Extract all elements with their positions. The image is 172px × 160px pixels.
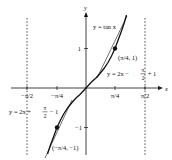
y-tick-label: −1 — [75, 124, 82, 131]
svg-text:− 1: − 1 — [48, 108, 58, 115]
y-axis-arrow-icon — [84, 12, 88, 17]
x-tick-label: −π/4 — [51, 92, 64, 99]
svg-text:2: 2 — [44, 113, 47, 119]
svg-text:y = 2x +: y = 2x + — [9, 108, 31, 115]
y-tick-label: 1 — [78, 45, 81, 52]
svg-text:π: π — [44, 105, 47, 111]
tan-graph: y x −π/2 −π/4 π/4 π/2 1 −1 y = tan x (π/… — [0, 0, 172, 160]
point-label-lower: (−π/4, −1) — [52, 144, 79, 152]
x-tick-label: −π/2 — [21, 92, 33, 99]
svg-text:π: π — [142, 67, 145, 73]
x-tick-label: π/2 — [141, 92, 149, 99]
function-label: y = tan x — [93, 23, 117, 30]
y-axis-label: y — [83, 4, 87, 11]
x-axis-arrow-icon — [158, 86, 163, 90]
svg-text:2: 2 — [142, 75, 145, 81]
x-axis-label: x — [164, 85, 168, 92]
x-tick-label: π/4 — [111, 92, 120, 99]
point-label-upper: (π/4, 1) — [118, 54, 137, 62]
tangent-label-upper: y = 2x − π 2 + 1 — [107, 67, 156, 81]
point-neg-pi4 — [55, 125, 59, 129]
tan-curve — [48, 15, 127, 154]
tangent-label-lower: y = 2x + π 2 − 1 — [9, 105, 58, 119]
point-pi4 — [113, 46, 117, 50]
svg-text:y = 2x −: y = 2x − — [107, 70, 129, 77]
svg-text:+ 1: + 1 — [146, 70, 156, 77]
